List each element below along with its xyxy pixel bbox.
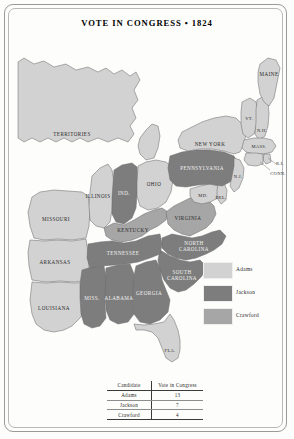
map-label-rhode-island: R.I. [276,161,284,166]
legend-swatch-adams [203,262,233,279]
map-label-kentucky: KENTUCKY [117,227,149,233]
table-cell-votes: 4 [152,410,204,420]
region-territories [18,58,140,142]
map-label-alabama: ALABAMA [105,295,134,301]
map-label-delaware: DEL. [215,195,226,200]
map-label-pennsylvania: PENNSYLVANIA [180,165,224,171]
map-label-ohio: OHIO [147,181,162,187]
figure-title: VOTE IN CONGRESS • 1824 [0,18,294,28]
table-header-row: Candidate Vote in Congress [107,381,203,390]
map-label-virginia: VIRGINIA [175,215,202,221]
region-connecticut [244,153,263,166]
map-legend: Adams Jackson Crawford [203,262,281,331]
table-row: Adams 13 [107,390,203,400]
map-label-new-jersey: N.J. [234,174,242,179]
map-label-tennessee: TENNESSEE [107,250,140,256]
legend-swatch-jackson [203,285,233,302]
table-row: Crawford 4 [107,410,203,420]
region-rhode-island [263,154,271,164]
table-cell-candidate: Jackson [107,400,152,410]
map-label-mississippi: MISS. [84,295,99,301]
map-figure: VOTE IN CONGRESS • 1824 [0,0,294,439]
map-label-south-carolina: SOUTH CAROLINA [159,270,205,281]
map-label-connecticut: CONN. [270,171,285,176]
legend-item-crawford: Crawford [203,308,281,331]
map-label-missouri: MISSOURI [42,216,70,222]
legend-label-crawford: Crawford [236,312,259,318]
map-label-new-york: NEW YORK [195,141,226,147]
map-label-north-carolina: NORTH CAROLINA [171,241,217,252]
legend-label-adams: Adams [236,266,253,272]
map-label-maine: MAINE [260,71,279,77]
table-header-candidate: Candidate [107,381,152,390]
legend-label-jackson: Jackson [236,289,255,295]
legend-swatch-crawford [203,308,233,325]
table-row: Jackson 7 [107,400,203,410]
table-cell-candidate: Crawford [107,410,152,420]
map-label-louisiana: LOUISIANA [38,305,70,311]
region-missouri [28,190,90,240]
map-label-new-hampshire: N.H. [257,128,267,133]
map-label-indiana: IND. [118,190,130,196]
map-label-massachusetts: MASS. [252,144,267,149]
legend-item-jackson: Jackson [203,285,281,308]
map-label-arkansas: ARKANSAS [39,259,70,265]
map-label-illinois: ILLINOIS [85,193,110,199]
region-alabama [105,264,134,324]
map-label-vermont: VT. [245,116,253,121]
table-header-votes: Vote in Congress [152,381,204,390]
table-cell-candidate: Adams [107,390,152,400]
table-cell-votes: 7 [152,400,204,410]
map-label-territories: TERRITORIES [53,131,90,137]
region-michigan [138,124,160,160]
region-new-york [178,116,246,154]
map-label-florida: FLA. [165,348,176,353]
map-label-maryland: MD. [198,193,207,198]
map-label-georgia: GEORGIA [136,290,162,296]
results-table: Candidate Vote in Congress Adams 13 Jack… [107,381,203,420]
legend-item-adams: Adams [203,262,281,285]
table-cell-votes: 13 [152,390,204,400]
